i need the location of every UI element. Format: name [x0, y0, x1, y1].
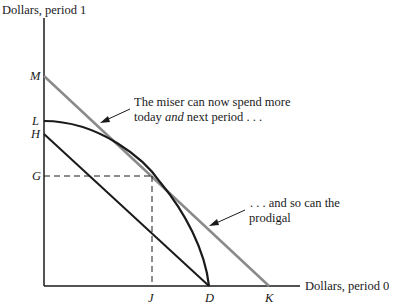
point-G: G — [32, 169, 41, 183]
point-M: M — [30, 69, 40, 83]
arrow-prodigal — [214, 210, 245, 224]
annotation-prodigal-line2: prodigal — [249, 211, 291, 225]
diagram-canvas — [0, 0, 401, 307]
annotation-miser-line1: The miser can now spend more — [134, 95, 291, 109]
miser-text-pre: today — [134, 110, 165, 124]
point-H: H — [31, 127, 40, 141]
y-axis-label: Dollars, period 1 — [2, 3, 86, 17]
annotation-miser-line2: today and next period . . . — [134, 110, 262, 124]
annotation-prodigal-line1: . . . and so can the — [250, 196, 340, 210]
miser-text-post: next period . . . — [184, 110, 262, 124]
miser-text-emphasis: and — [165, 110, 184, 124]
line-HD — [44, 134, 209, 286]
point-D: D — [205, 291, 214, 305]
point-L: L — [32, 114, 39, 128]
curve-LD — [44, 121, 209, 286]
arrowhead-prodigal — [209, 219, 219, 226]
x-axis-label: Dollars, period 0 — [305, 279, 389, 293]
arrowhead-miser — [100, 116, 110, 123]
point-K: K — [265, 291, 273, 305]
point-J: J — [148, 291, 154, 305]
